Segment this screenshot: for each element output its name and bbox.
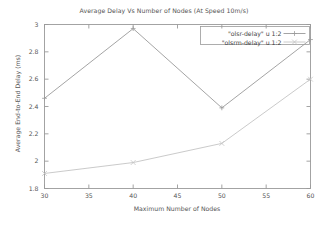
legend-sample-0 bbox=[284, 31, 306, 36]
x-tick-label: 60 bbox=[296, 192, 326, 199]
x-axis-title: Maximum Number of Nodes bbox=[44, 205, 310, 212]
legend-item-label: "olsr-delay" u 1:2 bbox=[203, 30, 282, 37]
chart-title: Average Delay Vs Number of Nodes (At Spe… bbox=[0, 7, 328, 14]
y-tick-label: 2.4 bbox=[15, 103, 39, 110]
x-tick-label: 30 bbox=[30, 192, 60, 199]
series-1 bbox=[42, 77, 313, 176]
y-tick-label: 1.8 bbox=[15, 185, 39, 192]
plot-border bbox=[45, 25, 311, 189]
x-tick-label: 35 bbox=[74, 192, 104, 199]
series-line bbox=[45, 79, 311, 173]
delay-vs-nodes-chart: Average Delay Vs Number of Nodes (At Spe… bbox=[0, 0, 328, 225]
x-tick-label: 50 bbox=[207, 192, 237, 199]
y-tick-label: 2.8 bbox=[15, 48, 39, 55]
y-tick-label: 3 bbox=[15, 21, 39, 28]
y-tick-label: 2 bbox=[15, 157, 39, 164]
x-tick-label: 40 bbox=[118, 192, 148, 199]
legend-item-label: "olsrm-delay" u 1:2 bbox=[203, 39, 282, 46]
y-tick-label: 2.2 bbox=[15, 130, 39, 137]
legend-sample-1 bbox=[284, 40, 306, 45]
x-tick-label: 45 bbox=[163, 192, 193, 199]
x-tick-label: 55 bbox=[251, 192, 281, 199]
y-tick-label: 2.6 bbox=[15, 75, 39, 82]
